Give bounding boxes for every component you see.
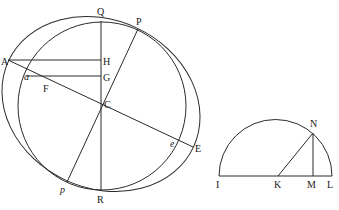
label-a: a	[24, 71, 29, 82]
label-Q: Q	[97, 6, 105, 17]
line-KN	[278, 133, 313, 176]
label-e: e	[170, 138, 175, 149]
label-F: F	[43, 83, 49, 94]
right-labels: N I K M L	[216, 118, 333, 190]
geometry-diagram: Q P A a H G F C e E p R N I K M L	[0, 0, 339, 210]
label-C: C	[104, 99, 111, 110]
label-N: N	[310, 118, 317, 129]
label-G: G	[103, 72, 110, 83]
label-M: M	[307, 179, 316, 190]
line-Pp	[67, 29, 138, 182]
label-P: P	[136, 16, 142, 27]
outer-ellipse	[0, 0, 229, 210]
label-p: p	[59, 184, 65, 195]
label-R: R	[97, 194, 104, 205]
label-A: A	[1, 56, 9, 67]
left-figure	[0, 0, 229, 210]
label-K: K	[274, 179, 282, 190]
label-I: I	[216, 179, 219, 190]
label-H: H	[103, 56, 110, 67]
label-L: L	[327, 179, 333, 190]
label-E: E	[195, 143, 201, 154]
